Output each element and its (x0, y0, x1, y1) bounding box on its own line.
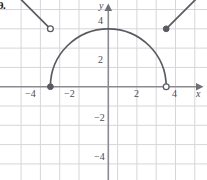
problem-number-label: 9. (0, 0, 5, 11)
y-tick-label-4: 4 (98, 15, 103, 26)
x-tick-label-neg4: −4 (25, 88, 36, 99)
x-tick-label-2: 2 (134, 88, 139, 99)
y-axis-arrow (105, 4, 113, 12)
x-axis-label: x (196, 88, 200, 99)
x-tick-label-4: 4 (172, 88, 177, 99)
y-tick-label-neg2: −2 (94, 112, 105, 123)
y-tick-label-neg4: −4 (94, 151, 105, 162)
right-ray-closed-endpoint (163, 26, 169, 32)
semicircle-right-open-endpoint (163, 84, 169, 90)
y-tick-label-2: 2 (98, 54, 103, 65)
left-ray-open-endpoint (48, 26, 54, 32)
y-axis-label: y (99, 0, 103, 11)
graph-figure: 9. (0, 0, 207, 180)
x-tick-label-neg2: −2 (64, 88, 75, 99)
right-ray (166, 0, 200, 29)
semicircle-left-closed-endpoint (48, 84, 54, 90)
